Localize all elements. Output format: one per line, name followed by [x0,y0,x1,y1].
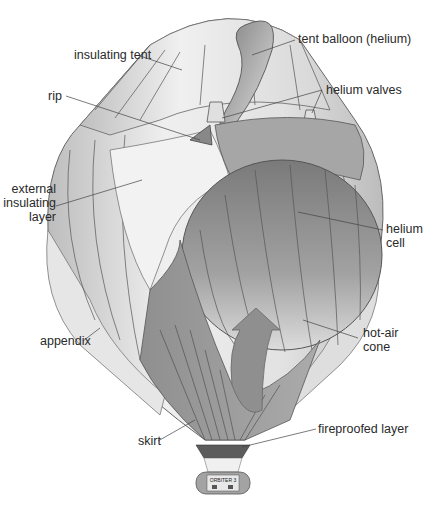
label-line: external [2,182,56,196]
label-skirt: skirt [138,434,161,448]
gondola-text: ORBITER 3 [210,477,237,483]
label-line: insulating [2,196,56,210]
label-fireproofed-layer: fireproofed layer [318,422,408,436]
label-line: cell [386,236,423,250]
label-line: layer [2,210,56,224]
label-rip: rip [48,89,62,103]
label-line: hot-air [363,326,398,340]
label-hot-air-cone: hot-air cone [363,326,398,354]
label-insulating-tent: insulating tent [74,48,151,62]
label-external-insulating-layer: external insulating layer [2,182,56,224]
label-line: cone [363,340,398,354]
burner-frame [204,458,242,472]
label-line: helium [386,222,423,236]
label-tent-balloon: tent balloon (helium) [298,32,411,46]
label-helium-valves: helium valves [326,83,402,97]
label-appendix: appendix [40,334,91,348]
label-helium-cell: helium cell [386,222,423,250]
helium-cell [182,160,382,352]
gondola: ORBITER 3 [196,472,250,494]
fireproofed-layer [196,445,250,458]
